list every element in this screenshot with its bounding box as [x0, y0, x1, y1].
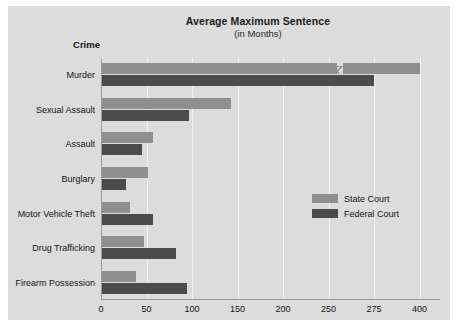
- chart-subtitle: (in Months): [128, 28, 388, 40]
- category-label: Burglary: [15, 174, 95, 184]
- x-tick-label: 100: [184, 304, 199, 314]
- chart-legend: State Court Federal Court: [312, 192, 399, 222]
- category-label: Firearm Possession: [15, 278, 95, 288]
- chart-title: Average Maximum Sentence: [128, 15, 388, 28]
- x-tick-label: 0: [98, 304, 103, 314]
- plot-frame: [101, 58, 440, 300]
- x-tick-label: 150: [230, 304, 245, 314]
- x-tick-label: 400: [412, 304, 427, 314]
- category-label: Motor Vehicle Theft: [15, 209, 95, 219]
- legend-swatch-state-court: [312, 194, 338, 203]
- plot-area: MurderSexual AssaultAssaultBurglaryMotor…: [101, 58, 440, 300]
- legend-item-state-court: State Court: [312, 192, 399, 205]
- chart-title-block: Average Maximum Sentence (in Months): [128, 15, 388, 40]
- legend-item-federal-court: Federal Court: [312, 207, 399, 220]
- category-label: Assault: [15, 139, 95, 149]
- legend-swatch-federal-court: [312, 209, 338, 218]
- category-axis-label: Crime: [18, 39, 100, 50]
- category-label: Sexual Assault: [15, 105, 95, 115]
- chart-figure: Average Maximum Sentence (in Months) Cri…: [8, 6, 450, 320]
- x-tick-label: 50: [141, 304, 151, 314]
- legend-label-state-court: State Court: [344, 194, 390, 204]
- x-tick-label: 200: [275, 304, 290, 314]
- legend-label-federal-court: Federal Court: [344, 209, 399, 219]
- x-tick-label: 250: [321, 304, 336, 314]
- category-label: Murder: [15, 70, 95, 80]
- category-label: Drug Trafficking: [15, 243, 95, 253]
- x-tick-label: 275: [367, 304, 382, 314]
